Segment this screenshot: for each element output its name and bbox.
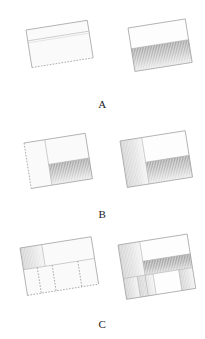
row-label-b: B bbox=[0, 208, 205, 220]
schematic-diagram bbox=[0, 0, 205, 339]
panel-c-left bbox=[20, 237, 99, 296]
row-label-a: A bbox=[0, 98, 205, 110]
figure-canvas: A B C bbox=[0, 0, 205, 339]
row-label-c: C bbox=[0, 318, 205, 330]
panel-a-left bbox=[26, 20, 93, 67]
panel-b-right bbox=[120, 131, 193, 188]
panel-a-right bbox=[128, 19, 192, 72]
panel-c-right bbox=[118, 234, 196, 299]
panel-b-left bbox=[24, 133, 92, 188]
